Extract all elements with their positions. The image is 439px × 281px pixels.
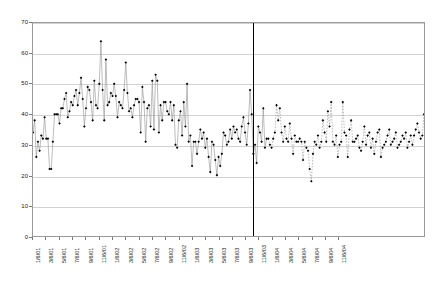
- data-point: [98, 83, 101, 86]
- data-point: [414, 128, 417, 131]
- y-tick-label: 60: [2, 50, 28, 56]
- data-point: [275, 104, 278, 107]
- data-point: [120, 104, 123, 107]
- data-point: [207, 156, 210, 159]
- data-point: [315, 143, 318, 146]
- data-point: [121, 107, 124, 110]
- data-point: [128, 110, 131, 113]
- data-point: [66, 116, 69, 119]
- data-point: [136, 98, 139, 101]
- data-point: [322, 119, 325, 122]
- data-point: [232, 125, 235, 128]
- data-point: [156, 80, 159, 83]
- series-line-historical: [33, 41, 267, 175]
- data-point: [358, 146, 361, 149]
- data-point: [71, 104, 74, 107]
- series-markers-forecast: [267, 101, 424, 183]
- data-point: [381, 146, 384, 149]
- x-tick-label: 3/6/01: [48, 248, 54, 263]
- data-point: [151, 80, 154, 83]
- x-tick-label: 5/6/03: [221, 248, 227, 263]
- data-point: [90, 101, 93, 104]
- data-point: [400, 140, 403, 143]
- data-point: [73, 95, 76, 98]
- data-point: [375, 140, 378, 143]
- data-point: [138, 101, 141, 104]
- data-point: [390, 143, 393, 146]
- data-point: [318, 146, 321, 149]
- data-point: [96, 107, 99, 110]
- data-point: [242, 116, 245, 119]
- data-point: [40, 134, 43, 137]
- y-tick-label: 30: [2, 142, 28, 148]
- data-point: [197, 140, 200, 143]
- data-point: [173, 104, 176, 107]
- data-point: [404, 131, 407, 134]
- data-point: [371, 137, 374, 140]
- y-tick-label: 0: [2, 234, 28, 240]
- data-point: [126, 92, 129, 95]
- data-point: [113, 83, 116, 86]
- data-point: [133, 104, 136, 107]
- data-point: [115, 95, 118, 98]
- x-tick-mark: [59, 237, 60, 240]
- data-point: [373, 153, 376, 156]
- data-point: [178, 119, 181, 122]
- data-point: [391, 140, 394, 143]
- x-tick-label: 3/6/04: [288, 248, 294, 263]
- x-tick-mark: [219, 237, 220, 240]
- x-tick-mark: [32, 237, 33, 240]
- data-point: [184, 125, 187, 128]
- y-tick-label: 20: [2, 173, 28, 179]
- data-point: [194, 140, 197, 143]
- x-tick-mark: [85, 237, 86, 240]
- x-tick-label: 5/6/04: [301, 248, 307, 263]
- data-point: [62, 107, 65, 110]
- data-point: [237, 137, 240, 140]
- data-point: [345, 134, 348, 137]
- data-point: [217, 156, 220, 159]
- series-layer: [33, 23, 424, 236]
- x-tick-label: 11/6/01: [101, 245, 107, 263]
- regime-divider-line: [253, 23, 254, 236]
- data-point: [279, 107, 282, 110]
- data-point: [116, 116, 119, 119]
- data-point: [259, 131, 262, 134]
- data-point: [179, 110, 182, 113]
- data-point: [356, 134, 359, 137]
- x-tick-label: 1/6/01: [35, 248, 41, 263]
- data-point: [274, 131, 277, 134]
- data-point: [216, 174, 219, 177]
- data-point: [418, 131, 421, 134]
- data-point: [403, 137, 406, 140]
- data-point: [254, 143, 257, 146]
- data-point: [153, 128, 156, 131]
- x-tick-mark: [99, 237, 100, 240]
- data-point: [257, 125, 260, 128]
- data-point: [396, 146, 399, 149]
- data-point: [269, 143, 272, 146]
- data-point: [204, 146, 207, 149]
- x-tick-label: 9/6/02: [168, 248, 174, 263]
- data-point: [244, 131, 247, 134]
- data-point: [305, 146, 308, 149]
- data-point: [330, 101, 333, 104]
- data-point: [234, 131, 237, 134]
- data-point: [111, 95, 114, 98]
- data-point: [108, 101, 111, 104]
- x-tick-label: 11/6/04: [341, 245, 347, 263]
- data-point: [267, 137, 270, 140]
- data-point: [247, 122, 250, 125]
- data-point: [143, 101, 146, 104]
- data-point: [81, 98, 84, 101]
- data-point: [123, 89, 126, 92]
- data-point: [106, 104, 109, 107]
- data-point: [33, 119, 36, 122]
- data-point: [310, 180, 313, 183]
- data-point: [333, 143, 336, 146]
- data-point: [149, 125, 152, 128]
- data-point: [181, 134, 184, 137]
- data-point: [289, 122, 292, 125]
- series-markers-historical: [33, 40, 268, 176]
- data-point: [284, 125, 287, 128]
